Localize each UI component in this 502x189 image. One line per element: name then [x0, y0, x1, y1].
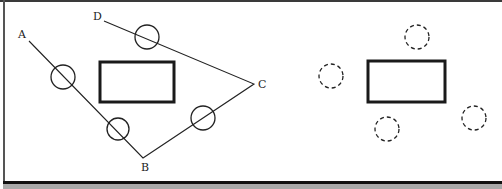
dashed-circle-3 [375, 117, 399, 141]
dashed-circle-2 [319, 64, 343, 88]
left-circles-group [51, 25, 215, 140]
right-obstacle-rectangle [368, 61, 445, 102]
footer-grey-bar [3, 184, 502, 189]
dashed-circle-4 [462, 106, 486, 130]
diagram-svg: A B C D [0, 0, 502, 189]
solid-circle-3 [135, 25, 159, 49]
solid-circle-2 [107, 118, 129, 140]
point-label-b: B [141, 161, 149, 174]
right-dashed-circles-group [319, 25, 486, 141]
point-label-d: D [93, 10, 102, 23]
diagram-canvas: A B C D [0, 0, 502, 189]
solid-circle-1 [51, 65, 75, 89]
left-obstacle-rectangle [100, 62, 174, 102]
dashed-circle-1 [405, 25, 429, 49]
point-label-a: A [17, 28, 27, 41]
point-label-c: C [258, 78, 266, 91]
